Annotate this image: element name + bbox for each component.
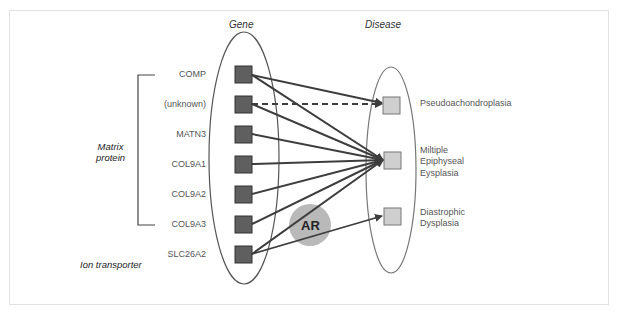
disease-header: Disease	[365, 19, 401, 30]
disease-box-med	[384, 152, 401, 169]
gene-box-matn3	[235, 126, 252, 143]
gene-header: Gene	[229, 19, 253, 30]
gene-box-col9a1	[235, 156, 252, 173]
gene-label-col9a3: COL9A3	[116, 219, 206, 229]
gene-label-comp: COMP	[116, 69, 206, 79]
matrix-protein-label: Matrix protein	[96, 141, 125, 164]
gene-label-matn3: MATN3	[116, 129, 206, 139]
disease-label-pseudoachondroplasia: Pseudoachondroplasia	[420, 98, 512, 109]
disease-box-pseudoachondroplasia	[383, 97, 400, 114]
gene-box-col9a2	[235, 186, 252, 203]
disease-label-diastrophic: Diastrophic Dysplasia	[420, 207, 465, 230]
ar-badge-label: AR	[301, 218, 320, 233]
disease-box-diastrophic	[384, 208, 401, 225]
matrix-protein-bracket	[138, 75, 155, 225]
ion-transporter-label: Ion transporter	[80, 259, 142, 270]
gene-label-col9a2: COL9A2	[116, 189, 206, 199]
gene-box-comp	[235, 66, 252, 83]
gene-label-unknown: (unknown)	[116, 99, 206, 109]
gene-box-unknown	[235, 96, 252, 113]
gene-label-slc26a2: SLC26A2	[116, 249, 206, 259]
gene-box-slc26a2	[235, 246, 252, 263]
gene-box-col9a3	[235, 216, 252, 233]
disease-label-med: Miltiple Epiphyseal Eysplasia	[420, 145, 464, 179]
gene-label-col9a1: COL9A1	[116, 159, 206, 169]
